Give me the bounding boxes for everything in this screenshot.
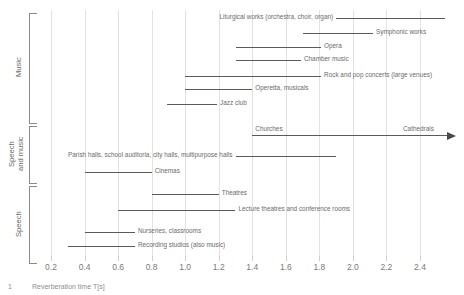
range-bar	[236, 60, 301, 61]
tick-0.6	[118, 256, 119, 261]
tick-label-1.2: 1.2	[213, 262, 225, 272]
bracket-music	[29, 13, 37, 124]
tick-0.8	[152, 256, 153, 261]
group-label-speech: Speech	[15, 186, 24, 262]
tick-1.2	[219, 256, 220, 261]
grid-line-1.2	[219, 10, 220, 258]
tick-label-0.8: 0.8	[146, 262, 158, 272]
range-label: Opera	[324, 43, 342, 49]
tick-label-2.0: 2.0	[347, 262, 359, 272]
range-bar	[85, 232, 135, 233]
grid-line-0.6	[118, 10, 119, 258]
tick-1.4	[252, 256, 253, 261]
range-bar	[185, 76, 321, 77]
grid-line-0.8	[152, 10, 153, 258]
arrow-head-icon	[447, 132, 456, 140]
tick-label-1.6: 1.6	[280, 262, 292, 272]
range-bar	[118, 210, 235, 211]
reverberation-time-chart: 0.20.40.60.81.01.21.41.61.82.02.22.4 Lit…	[0, 0, 464, 295]
tick-1.0	[185, 256, 186, 261]
range-bar	[303, 33, 373, 34]
range-label: Operetta, musicals	[255, 85, 308, 91]
grid-line-2.2	[386, 10, 387, 258]
range-label: Churches	[255, 126, 282, 132]
range-bar	[252, 135, 447, 136]
range-bar	[167, 104, 217, 105]
caption-number: 1	[8, 283, 30, 290]
tick-label-1.0: 1.0	[179, 262, 191, 272]
range-bar	[68, 246, 135, 247]
tick-label-0.2: 0.2	[45, 262, 57, 272]
grid-line-2.0	[353, 10, 354, 258]
tick-0.4	[85, 256, 86, 261]
range-bar	[85, 172, 152, 173]
range-label: Recording studios (also music)	[138, 242, 225, 248]
tick-label-0.6: 0.6	[112, 262, 124, 272]
tick-label-1.8: 1.8	[313, 262, 325, 272]
tick-2.4	[420, 256, 421, 261]
tick-label-0.4: 0.4	[79, 262, 91, 272]
range-bar	[152, 194, 219, 195]
grid-line-1.0	[185, 10, 186, 258]
range-label: Lecture theatres and conference rooms	[239, 206, 351, 212]
range-bar	[185, 89, 252, 90]
tick-label-2.2: 2.2	[381, 262, 393, 272]
tick-label-2.4: 2.4	[414, 262, 426, 272]
range-bar	[336, 18, 445, 19]
range-label: Liturgical works (orchestra, choir, orga…	[219, 14, 333, 20]
range-label: Chamber music	[304, 56, 349, 62]
bracket-speech-and-music	[29, 126, 37, 184]
tick-2.2	[386, 256, 387, 261]
grid-line-0.4	[85, 10, 86, 258]
range-label: Nurseries, classrooms	[138, 228, 201, 234]
tick-1.8	[319, 256, 320, 261]
tick-label-1.4: 1.4	[246, 262, 258, 272]
tick-1.6	[286, 256, 287, 261]
caption-text: Reverberation time T[s]	[32, 283, 105, 290]
range-label: Symphonic works	[376, 29, 426, 35]
range-bar	[236, 47, 322, 48]
range-label: Cinemas	[155, 168, 180, 174]
range-end-label: Cathedrals	[403, 126, 434, 132]
range-label: Theatres	[222, 190, 247, 196]
bracket-speech	[29, 186, 37, 264]
figure-caption: 1 Reverberation time T[s]	[8, 283, 105, 290]
tick-0.2	[51, 256, 52, 261]
range-label: Jazz club	[220, 100, 247, 106]
group-label-speech-and-music: Speech and music	[8, 126, 25, 182]
tick-2.0	[353, 256, 354, 261]
grid-line-0.2	[51, 10, 52, 258]
grid-line-2.4	[420, 10, 421, 258]
range-label: Rock and pop concerts (large venues)	[324, 72, 432, 78]
range-label: Parish halls, school auditoria, city hal…	[68, 152, 232, 158]
group-label-music: Music	[15, 13, 24, 122]
range-bar	[236, 156, 337, 157]
